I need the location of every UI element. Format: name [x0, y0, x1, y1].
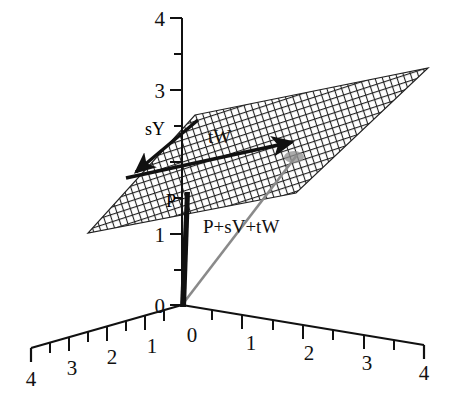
figure-container: 4 3 sY P 1 0 4 3 2 1 0 — [0, 0, 454, 405]
three-d-plane-figure: 4 3 sY P 1 0 4 3 2 1 0 — [0, 0, 454, 405]
y-axis-label-2: 2 — [107, 345, 118, 369]
point-label-expression: P+sV+tW — [203, 216, 279, 237]
z-axis-label-P: P — [166, 191, 176, 211]
x-axis-label-4: 4 — [419, 361, 430, 385]
z-axis-label-1: 1 — [155, 223, 166, 247]
x-axis-label-2: 2 — [304, 341, 315, 365]
y-axis-label-3: 3 — [67, 356, 78, 380]
x-axis-label-1: 1 — [246, 331, 257, 355]
y-axis-label-0: 0 — [187, 323, 198, 347]
x-axis-label-3: 3 — [362, 351, 373, 375]
z-axis-label-sY: sY — [145, 119, 165, 139]
vector-label-tW: tW — [208, 126, 231, 147]
y-axis-label-4: 4 — [26, 367, 37, 391]
y-axis-label-1: 1 — [147, 334, 158, 358]
vertical-axis — [170, 18, 182, 305]
z-axis-label-3: 3 — [155, 79, 166, 103]
z-axis-label-4: 4 — [155, 7, 166, 31]
